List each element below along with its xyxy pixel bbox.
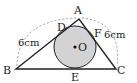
geometry-diagram: A D F B C E O 6cm 6cm [0,0,137,83]
label-b: B [3,64,11,77]
label-o: O [78,41,87,54]
length-label-left: 6cm [18,37,40,48]
label-a: A [73,4,83,17]
center-point-o [73,45,76,48]
label-e: E [71,71,79,83]
label-c: C [117,64,125,77]
label-d: D [57,21,66,34]
length-label-right: 6cm [104,29,126,40]
label-f: F [94,27,102,40]
